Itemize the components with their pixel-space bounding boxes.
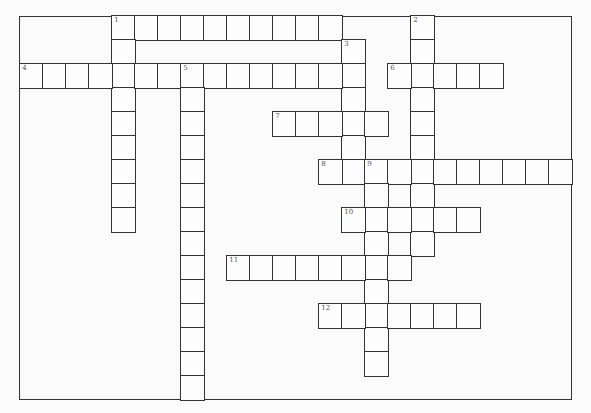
crossword-cell[interactable] — [180, 111, 205, 137]
crossword-cell[interactable] — [364, 351, 389, 377]
crossword-cell[interactable] — [410, 87, 435, 113]
crossword-cell[interactable] — [341, 135, 366, 161]
crossword-cell[interactable] — [341, 111, 366, 137]
crossword-cell[interactable] — [111, 183, 136, 209]
crossword-cell[interactable] — [88, 63, 113, 89]
crossword-cell[interactable] — [65, 63, 90, 89]
crossword-cell[interactable] — [111, 207, 136, 233]
crossword-cell[interactable] — [180, 255, 205, 281]
crossword-cell[interactable] — [318, 63, 343, 89]
crossword-cell[interactable] — [295, 15, 320, 41]
crossword-cell[interactable] — [111, 159, 136, 185]
crossword-cell[interactable]: 11 — [226, 255, 251, 281]
crossword-cell[interactable] — [502, 159, 527, 185]
crossword-cell[interactable] — [180, 15, 205, 41]
crossword-cell[interactable] — [180, 327, 205, 353]
crossword-cell[interactable] — [387, 159, 412, 185]
crossword-cell[interactable] — [111, 87, 136, 113]
crossword-cell[interactable] — [226, 63, 251, 89]
crossword-cell[interactable] — [433, 159, 458, 185]
crossword-cell[interactable] — [157, 15, 182, 41]
crossword-cell[interactable] — [364, 255, 389, 281]
crossword-cell[interactable] — [410, 135, 435, 161]
crossword-cell[interactable] — [479, 159, 504, 185]
crossword-cell[interactable] — [433, 63, 458, 89]
crossword-cell[interactable]: 6 — [387, 63, 412, 89]
crossword-cell[interactable] — [249, 63, 274, 89]
crossword-cell[interactable] — [479, 63, 504, 89]
crossword-cell[interactable]: 8 — [318, 159, 343, 185]
crossword-cell[interactable] — [456, 303, 481, 329]
crossword-cell[interactable] — [341, 303, 366, 329]
crossword-cell[interactable] — [387, 207, 412, 233]
crossword-cell[interactable] — [180, 375, 205, 401]
crossword-cell[interactable] — [295, 63, 320, 89]
crossword-cell[interactable] — [410, 207, 435, 233]
crossword-cell[interactable]: 9 — [364, 159, 389, 185]
crossword-cell[interactable] — [341, 87, 366, 113]
crossword-cell[interactable] — [111, 63, 136, 89]
crossword-cell[interactable] — [410, 159, 435, 185]
crossword-cell[interactable] — [387, 255, 412, 281]
crossword-cell[interactable]: 10 — [341, 207, 366, 233]
crossword-cell[interactable] — [180, 231, 205, 257]
crossword-cell[interactable] — [433, 303, 458, 329]
crossword-cell[interactable] — [410, 39, 435, 65]
crossword-cell[interactable] — [364, 183, 389, 209]
crossword-cell[interactable] — [203, 15, 228, 41]
crossword-cell[interactable]: 7 — [272, 111, 297, 137]
crossword-cell[interactable] — [410, 231, 435, 257]
crossword-cell[interactable] — [410, 63, 435, 89]
crossword-cell[interactable] — [410, 183, 435, 209]
crossword-cell[interactable] — [180, 135, 205, 161]
crossword-cell[interactable] — [318, 15, 343, 41]
crossword-cell[interactable] — [249, 255, 274, 281]
crossword-cell[interactable] — [341, 159, 366, 185]
crossword-cell[interactable]: 12 — [318, 303, 343, 329]
crossword-cell[interactable]: 2 — [410, 15, 435, 41]
crossword-cell[interactable]: 4 — [19, 63, 44, 89]
crossword-cell[interactable] — [180, 279, 205, 305]
crossword-cell[interactable] — [364, 231, 389, 257]
crossword-cell[interactable] — [364, 111, 389, 137]
crossword-cell[interactable] — [272, 63, 297, 89]
crossword-cell[interactable] — [180, 183, 205, 209]
crossword-cell[interactable] — [249, 15, 274, 41]
crossword-cell[interactable] — [433, 207, 458, 233]
crossword-cell[interactable]: 5 — [180, 63, 205, 89]
crossword-cell[interactable] — [318, 255, 343, 281]
crossword-cell[interactable] — [203, 63, 228, 89]
crossword-cell[interactable] — [387, 303, 412, 329]
crossword-cell[interactable] — [134, 63, 159, 89]
crossword-cell[interactable] — [180, 87, 205, 113]
crossword-cell[interactable] — [295, 255, 320, 281]
crossword-cell[interactable] — [111, 39, 136, 65]
crossword-cell[interactable] — [456, 63, 481, 89]
crossword-cell[interactable] — [272, 15, 297, 41]
crossword-cell[interactable] — [111, 135, 136, 161]
crossword-cell[interactable] — [180, 207, 205, 233]
crossword-cell[interactable] — [410, 303, 435, 329]
crossword-cell[interactable] — [548, 159, 573, 185]
crossword-cell[interactable]: 1 — [111, 15, 136, 41]
crossword-cell[interactable] — [410, 111, 435, 137]
crossword-cell[interactable] — [180, 303, 205, 329]
crossword-cell[interactable] — [42, 63, 67, 89]
crossword-cell[interactable] — [226, 15, 251, 41]
crossword-cell[interactable] — [180, 159, 205, 185]
crossword-cell[interactable] — [157, 63, 182, 89]
crossword-cell[interactable] — [295, 111, 320, 137]
crossword-cell[interactable]: 3 — [341, 39, 366, 65]
crossword-cell[interactable] — [364, 327, 389, 353]
crossword-cell[interactable] — [364, 279, 389, 305]
crossword-cell[interactable] — [111, 111, 136, 137]
crossword-cell[interactable] — [364, 303, 389, 329]
crossword-cell[interactable] — [364, 207, 389, 233]
crossword-cell[interactable] — [134, 15, 159, 41]
crossword-cell[interactable] — [456, 207, 481, 233]
crossword-cell[interactable] — [272, 255, 297, 281]
crossword-cell[interactable] — [318, 111, 343, 137]
crossword-cell[interactable] — [341, 63, 366, 89]
crossword-cell[interactable] — [341, 255, 366, 281]
crossword-cell[interactable] — [525, 159, 550, 185]
